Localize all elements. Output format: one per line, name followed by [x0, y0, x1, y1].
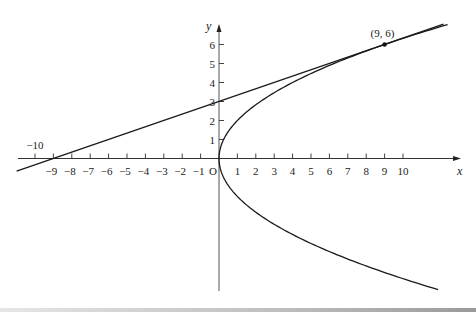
x-tick-label: 7 — [345, 165, 351, 177]
x-axis: −10−9−8−7−6−5−4−3−2−112345678910 x — [18, 139, 463, 178]
x-tick-label: −2 — [174, 165, 186, 177]
x-tick-label: 6 — [327, 165, 333, 177]
y-tick-label: 1 — [210, 134, 216, 146]
tangent-point-label: (9, 6) — [371, 27, 395, 40]
x-tick-label: 10 — [398, 165, 410, 177]
y-tick-label: 2 — [210, 115, 216, 127]
x-axis-label: x — [456, 164, 463, 178]
x-tick-label: 4 — [290, 165, 296, 177]
x-tick-label: −1 — [193, 165, 205, 177]
x-tick-label: −7 — [82, 165, 94, 177]
y-tick-label: 6 — [210, 39, 216, 51]
x-tick-label: −5 — [119, 165, 131, 177]
y-axis: 123456 y — [205, 19, 224, 291]
x-tick-label: −4 — [138, 165, 150, 177]
x-tick-label: −3 — [156, 165, 168, 177]
x-tick-label: −9 — [46, 165, 58, 177]
origin-label: O — [209, 165, 217, 177]
y-tick-label: 4 — [210, 77, 216, 89]
parabola-tangent-diagram: −10−9−8−7−6−5−4−3−2−112345678910 x 12345… — [0, 0, 476, 313]
y-axis-arrow-icon — [217, 24, 222, 32]
y-axis-ticks: 123456 — [210, 39, 225, 146]
x-tick-label: −6 — [101, 165, 113, 177]
tangent-point-dot — [382, 42, 386, 46]
x-tick-label: 5 — [308, 165, 314, 177]
x-tick-label: 2 — [253, 165, 259, 177]
x-tick-label: 1 — [235, 165, 241, 177]
bottom-rule-divider — [0, 308, 476, 312]
y-axis-label: y — [205, 19, 212, 33]
x-axis-arrow-icon — [453, 156, 461, 161]
y-tick-label: 5 — [210, 58, 216, 70]
x-tick-label: 9 — [382, 165, 388, 177]
x-tick-label: −10 — [26, 139, 44, 151]
y-tick-label: 3 — [210, 96, 216, 108]
x-tick-label: −8 — [64, 165, 76, 177]
x-tick-label: 8 — [363, 165, 369, 177]
x-tick-label: 3 — [271, 165, 277, 177]
parabola-curve — [219, 25, 448, 290]
tangent-line — [17, 24, 444, 171]
x-axis-ticks: −10−9−8−7−6−5−4−3−2−112345678910 — [26, 139, 409, 177]
